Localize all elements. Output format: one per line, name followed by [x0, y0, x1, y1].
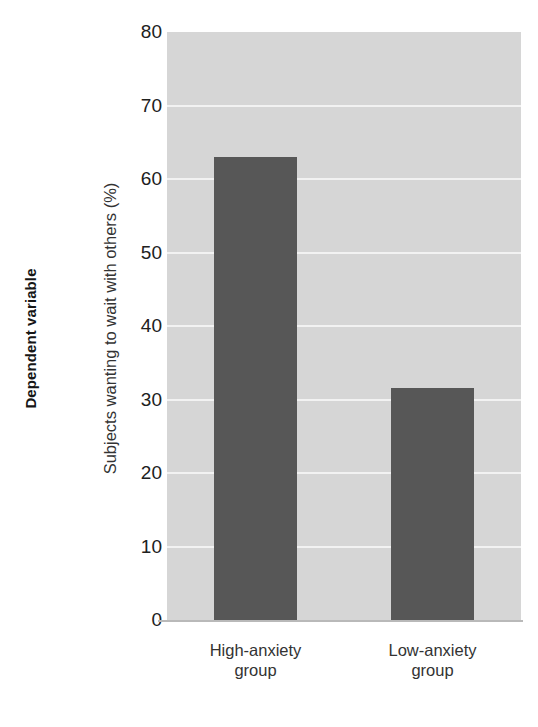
gridline [167, 105, 521, 107]
y-axis-tick-labels: 01020304050607080 [118, 32, 162, 620]
y-tick-label: 0 [118, 609, 162, 631]
y-tick-label: 30 [118, 389, 162, 411]
bar [214, 157, 297, 620]
y-tick-label: 20 [118, 462, 162, 484]
x-axis-line [158, 620, 523, 622]
bar-chart-figure: Dependent variable Subjects wanting to w… [0, 0, 538, 727]
dependent-variable-caption: Dependent variable [22, 229, 39, 449]
x-category-label: Low-anxietygroup [344, 640, 521, 680]
y-tick-label: 80 [118, 21, 162, 43]
x-category-label-line: High-anxiety [167, 640, 344, 660]
y-tick-label: 50 [118, 242, 162, 264]
y-tick-label: 10 [118, 536, 162, 558]
x-category-label-line: group [344, 660, 521, 680]
x-category-label-line: Low-anxiety [344, 640, 521, 660]
y-tick-label: 40 [118, 315, 162, 337]
y-tick-label: 70 [118, 95, 162, 117]
plot-area [167, 32, 521, 620]
y-tick-label: 60 [118, 168, 162, 190]
x-category-label: High-anxietygroup [167, 640, 344, 680]
x-category-label-line: group [167, 660, 344, 680]
x-axis-category-labels: High-anxietygroupLow-anxietygroup [167, 640, 521, 700]
bar [391, 388, 474, 620]
y-axis-title: Subjects wanting to wait with others (%) [101, 124, 120, 534]
